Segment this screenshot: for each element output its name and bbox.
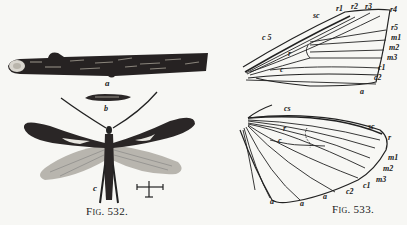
hw-label-r-outer: r: [388, 133, 392, 142]
fw-label-c: c: [280, 65, 284, 74]
fw-label-r5: r5: [391, 23, 398, 32]
larva-case-illustration: [85, 94, 131, 101]
label-c: c: [93, 183, 97, 193]
scale-bar: [137, 181, 163, 197]
fw-label-c5: c 5: [262, 33, 272, 42]
fw-label-c1: c1: [378, 63, 386, 72]
hw-label-m2: m2: [383, 164, 393, 173]
fw-label-m2: m2: [389, 43, 399, 52]
fw-label-a: a: [360, 87, 364, 96]
hw-label-c: c: [278, 136, 282, 145]
hw-label-m1: m1: [388, 153, 398, 162]
hw-label-r: r: [283, 124, 287, 133]
fw-label-r4: r4: [390, 5, 397, 14]
hw-label-a3: a: [323, 192, 327, 201]
fw-label-r2: r2: [351, 2, 358, 11]
fw-label-m3: m3: [387, 53, 397, 62]
forewing-diagram: [243, 9, 390, 86]
forewing-labels: sc r1 r2 r3 r4 r5 m1 m2 m3 c1 c2 a c 5 r…: [262, 2, 401, 96]
fw-label-r3: r3: [365, 2, 372, 11]
fw-label-c2: c2: [374, 73, 382, 82]
figure-532: a b: [0, 0, 210, 225]
fw-label-r1: r1: [336, 4, 343, 13]
label-b: b: [104, 104, 108, 113]
moth-illustration: a b: [0, 0, 210, 225]
hw-label-a1: a: [270, 197, 274, 206]
fw-label-sc: sc: [312, 11, 320, 20]
figure-caption-533: Fig. 533.: [332, 203, 374, 215]
hw-label-sc: sc: [367, 122, 375, 131]
hw-label-m3: m3: [376, 175, 386, 184]
hw-label-cs: cs: [284, 104, 291, 113]
figure-caption-532: Fig. 532.: [86, 205, 128, 217]
fw-label-m1: m1: [391, 33, 401, 42]
hw-label-c2: c2: [346, 187, 354, 196]
figure-533: sc r1 r2 r3 r4 r5 m1 m2 m3 c1 c2 a c 5 r…: [210, 0, 407, 225]
hw-label-a2: a: [300, 199, 304, 208]
label-a: a: [105, 78, 110, 88]
moth-body: [100, 126, 118, 203]
wing-venation-diagram: sc r1 r2 r3 r4 r5 m1 m2 m3 c1 c2 a c 5 r…: [210, 0, 407, 225]
twig-illustration: [8, 53, 208, 78]
hw-label-c1: c1: [363, 181, 371, 190]
